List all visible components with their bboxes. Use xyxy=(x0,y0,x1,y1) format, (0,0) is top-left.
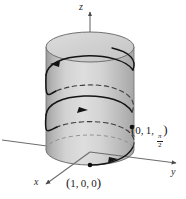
fraction-pi-over-two: π2 xyxy=(157,133,163,149)
paren-close: ) xyxy=(97,175,101,190)
axis-label-z: z xyxy=(79,2,83,12)
axis-label-y: y xyxy=(171,167,175,177)
comma-2: , xyxy=(151,124,156,136)
axis-label-x: x xyxy=(34,177,38,187)
fraction-denominator: 2 xyxy=(157,142,163,149)
point-label-quarter: (0, 1, π2) xyxy=(131,123,168,149)
cylinder-top-cap xyxy=(46,32,134,62)
helix-cylinder-figure: z y x (1, 0, 0) (0, 1, π2) xyxy=(0,0,186,199)
point-label-origin: (1, 0, 0) xyxy=(66,176,101,189)
paren-close: ) xyxy=(163,122,167,137)
figure-canvas xyxy=(0,0,186,199)
point-marker-origin xyxy=(88,163,93,168)
fraction-numerator: π xyxy=(157,133,163,140)
